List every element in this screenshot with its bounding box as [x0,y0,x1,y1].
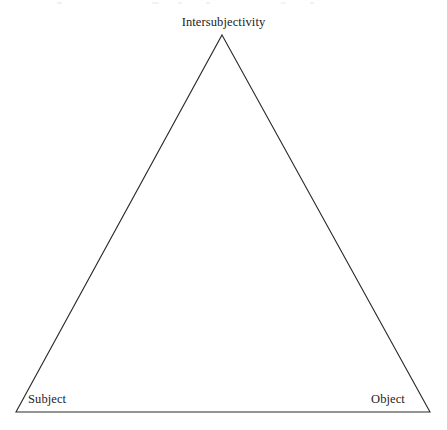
vertex-label-intersubjectivity: Intersubjectivity [0,15,447,29]
triangle-shape [0,0,447,430]
diagram-canvas: Intersubjectivity Subject Object [0,0,447,430]
scan-artifact-specks [57,2,314,4]
vertex-label-subject: Subject [28,392,66,406]
triangle-outline [16,35,430,412]
vertex-label-object: Object [371,392,405,406]
